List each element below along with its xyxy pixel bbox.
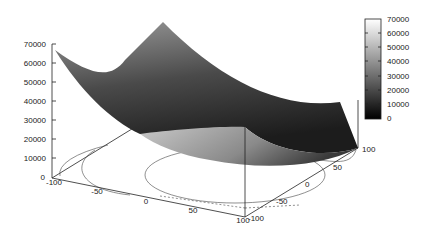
x-tick-label: 50 — [189, 206, 198, 215]
z-axis: 70000 60000 50000 40000 30000 20000 1000… — [24, 40, 56, 182]
y-tick-label: -100 — [248, 214, 265, 223]
y-tick-label: -50 — [276, 197, 288, 206]
z-tick-label: 40000 — [24, 97, 47, 106]
z-tick-label: 60000 — [24, 59, 47, 68]
x-tick-label: -100 — [46, 178, 63, 187]
colorbox-tick-label: 20000 — [387, 86, 410, 95]
x-tick-label: -50 — [91, 187, 103, 196]
z-tick-label: 50000 — [24, 78, 47, 87]
y-tick-label: 50 — [333, 163, 342, 172]
surface-plot: 70000 60000 50000 40000 30000 20000 1000… — [0, 0, 429, 233]
y-tick-label: 0 — [305, 180, 310, 189]
z-tick-label: 10000 — [24, 154, 47, 163]
colorbox-tick-label: 40000 — [387, 57, 410, 66]
colorbox-tick-label: 50000 — [387, 43, 410, 52]
colorbox-tick-label: 30000 — [387, 72, 410, 81]
z-tick-label: 20000 — [24, 135, 47, 144]
colorbox-tick-label: 10000 — [387, 100, 410, 109]
z-tick-label: 0 — [41, 173, 46, 182]
x-axis-labels: -100 -50 0 50 100 — [46, 178, 250, 225]
colorbox-tick-label: 60000 — [387, 29, 410, 38]
x-tick-label: 0 — [144, 197, 149, 206]
z-tick-label: 70000 — [24, 40, 47, 49]
y-tick-label: 100 — [362, 145, 376, 154]
surface — [55, 22, 358, 200]
colorbox-tick-label: 0 — [387, 114, 392, 123]
colorbox: 70000 60000 50000 40000 30000 20000 1000… — [365, 15, 410, 123]
colorbox-tick-label: 70000 — [387, 15, 410, 24]
z-tick-label: 30000 — [24, 116, 47, 125]
